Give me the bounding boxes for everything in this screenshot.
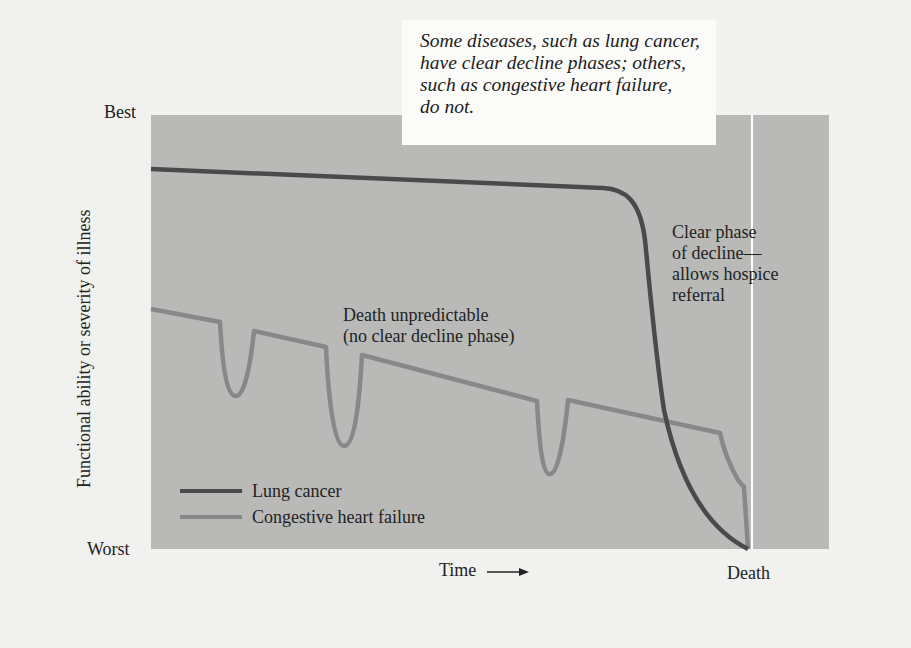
caption-line: Some diseases, such as lung cancer, <box>420 30 716 52</box>
chf-annotation: Death unpredictable (no clear decline ph… <box>343 305 514 347</box>
caption-line: have clear decline phases; others, <box>420 52 716 74</box>
legend-label: Lung cancer <box>252 481 341 502</box>
legend-item-lung-cancer: Lung cancer <box>180 478 425 504</box>
legend: Lung cancer Congestive heart failure <box>180 478 425 530</box>
legend-item-chf: Congestive heart failure <box>180 504 425 530</box>
annotation-line: of decline— <box>672 243 778 264</box>
legend-swatch <box>180 515 242 519</box>
annotation-line: Clear phase <box>672 222 778 243</box>
caption-line: do not. <box>420 96 716 118</box>
arrow-right-icon <box>487 567 529 577</box>
x-axis-title: Time <box>439 560 529 581</box>
x-axis-label: Time <box>439 560 476 580</box>
legend-label: Congestive heart failure <box>252 507 425 528</box>
y-axis-top-label: Best <box>104 102 136 123</box>
annotation-line: referral <box>672 285 778 306</box>
annotation-line: allows hospice <box>672 264 778 285</box>
legend-swatch <box>180 489 242 493</box>
y-axis-bottom-label: Worst <box>87 539 130 560</box>
caption-line: such as congestive heart failure, <box>420 74 716 96</box>
caption-box: Some diseases, such as lung cancer, have… <box>402 20 716 145</box>
lung-cancer-annotation: Clear phase of decline— allows hospice r… <box>672 222 778 306</box>
y-axis-title: Functional ability or severity of illnes… <box>74 210 95 488</box>
annotation-line: Death unpredictable <box>343 305 514 326</box>
x-axis-death-label: Death <box>727 563 770 584</box>
annotation-line: (no clear decline phase) <box>343 326 514 347</box>
